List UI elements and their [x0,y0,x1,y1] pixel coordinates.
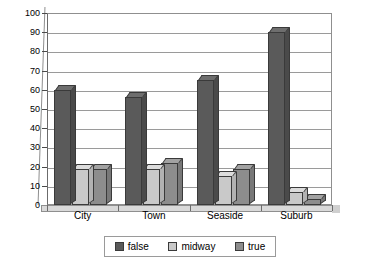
bar-side [214,75,219,203]
bar-side [178,158,183,204]
bar-side [232,171,237,203]
legend-item-true[interactable]: true [235,241,265,252]
bar-face [54,90,71,205]
bars-layer [47,13,332,205]
value-axis-tick-label: 0 [14,201,40,210]
bar-face [197,80,214,205]
bar-town-false[interactable] [125,97,142,205]
bar-city-false[interactable] [54,90,71,205]
bar-group-city [47,13,118,205]
value-axis-tick-label: 20 [14,163,40,172]
value-axis-tick-label: 100 [14,9,40,18]
bar-side [107,164,112,204]
value-axis-tick-label: 90 [14,28,40,37]
category-axis-label-town: Town [119,210,189,221]
bar-seaside-false[interactable] [197,80,214,205]
bar-face [125,97,142,205]
value-axis-tick-label: 70 [14,67,40,76]
bar-side [285,27,290,203]
category-axis-tick-mark [261,205,262,211]
value-axis-tick-label: 10 [14,182,40,191]
bar-group-suburb [261,13,332,205]
value-axis-tick-label: 80 [14,47,40,56]
category-axis-tick-mark [190,205,191,211]
value-axis-tick-label: 60 [14,86,40,95]
category-axis-tick-mark [118,205,119,211]
legend-label-false: false [128,241,149,252]
bar-suburb-false[interactable] [268,32,285,205]
bar-side [142,93,147,204]
bar-group-town [118,13,189,205]
category-axis-label-city: City [48,210,118,221]
chart-floor-corner [332,205,340,213]
bar-side [160,164,165,204]
value-axis-tick-label: 40 [14,124,40,133]
legend-swatch-midway-icon [168,242,177,251]
bar-group-seaside [190,13,261,205]
value-axis-tick-label: 30 [14,143,40,152]
category-axis-label-seaside: Seaside [190,210,260,221]
legend-swatch-true-icon [235,242,244,251]
value-axis-tick-label: 50 [14,105,40,114]
bar-side [71,85,76,204]
bar-chart: 1009080706050403020100 CityTownSeasideSu… [0,0,380,271]
bar-side [250,164,255,204]
legend: false midway true [104,236,276,257]
legend-label-midway: midway [181,241,215,252]
legend-item-midway[interactable]: midway [168,241,215,252]
legend-label-true: true [248,241,265,252]
bar-side [89,164,94,204]
legend-item-false[interactable]: false [115,241,149,252]
category-axis-label-suburb: Suburb [261,210,331,221]
category-axis-tick-mark [332,205,333,211]
legend-swatch-false-icon [115,242,124,251]
category-axis-tick-mark [47,205,48,211]
bar-face [268,32,285,205]
